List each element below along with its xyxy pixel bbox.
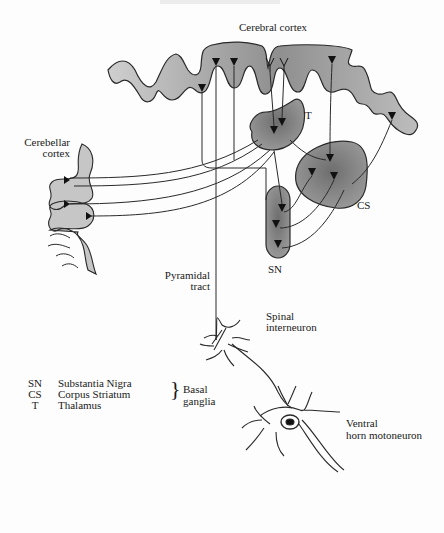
thalamus-nucleus <box>250 99 304 150</box>
pyramidal-tract-label-line2: tract <box>150 281 210 292</box>
ventral-horn-label-line1: Ventral <box>346 418 378 429</box>
legend-item-t: T Thalamus <box>22 400 162 411</box>
cerebellar-cortex <box>48 144 96 274</box>
legend: SN Substantia Nigra CS Corpus Striatum T… <box>22 378 162 411</box>
legend-abbr: T <box>22 400 48 411</box>
ventral-horn-label-line2: horn motoneuron <box>346 430 422 441</box>
diagram-canvas <box>0 0 444 533</box>
legend-group-label: Basal ganglia <box>183 383 215 407</box>
cerebral-cortex-label: Cerebral cortex <box>239 22 307 33</box>
legend-name: Thalamus <box>48 400 162 411</box>
spinal-pathway <box>200 318 344 472</box>
spinal-interneuron-label-line2: interneuron <box>266 322 317 333</box>
substantia-nigra-label: SN <box>268 264 282 275</box>
motor-system-diagram: Cerebral cortex Cerebellar cortex T CS S… <box>0 0 444 533</box>
thalamus-label: T <box>305 110 312 121</box>
cerebellar-cortex-label-line2: cortex <box>20 148 70 159</box>
brace-icon: } <box>170 378 181 400</box>
corpus-striatum-label: CS <box>357 200 370 211</box>
